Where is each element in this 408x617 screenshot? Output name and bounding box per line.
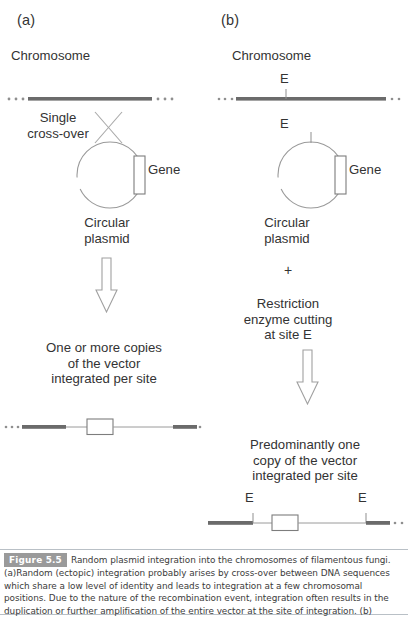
panel-b-chromosome-line bbox=[218, 89, 401, 101]
panel-a-vector-box bbox=[87, 419, 113, 435]
figure-number-badge: Figure 5.5 bbox=[4, 553, 67, 567]
panel-a-crossover-x-icon bbox=[95, 112, 122, 143]
panel-b-gene-box bbox=[335, 156, 346, 194]
panel-a-integrated-chromosome bbox=[5, 419, 202, 435]
figure-illustration: (a) (b) Chromosome Single cross-over Gen… bbox=[0, 0, 408, 548]
panel-a-plasmid-circle bbox=[77, 142, 145, 208]
figure-caption: Figure 5.5Random plasmid integration int… bbox=[0, 549, 408, 615]
panel-b-down-arrow-icon bbox=[297, 350, 318, 404]
caption-body: (a)Random (ectopic) integration probably… bbox=[4, 568, 390, 615]
panel-a-down-arrow-icon bbox=[96, 258, 117, 312]
panel-a-chromosome-line bbox=[8, 97, 174, 101]
panel-a-gene-box bbox=[134, 156, 145, 194]
diagram-graphics bbox=[0, 0, 408, 548]
caption-title: Random plasmid integration into the chro… bbox=[71, 555, 391, 565]
panel-b-plasmid-circle bbox=[278, 132, 346, 208]
panel-b-vector-box bbox=[272, 515, 298, 531]
panel-b-integrated-chromosome bbox=[208, 513, 403, 531]
